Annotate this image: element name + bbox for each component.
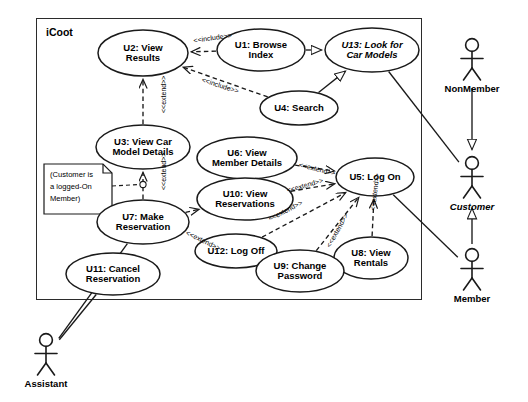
use-case-label-u9: U9: Change Password (256, 250, 344, 292)
actor-figure-customer[interactable] (461, 157, 483, 198)
actor-figure-assistant[interactable] (35, 334, 57, 375)
actor-label-assistant: Assistant (1, 378, 91, 389)
actor-figure-member[interactable] (461, 249, 483, 290)
use-case-label-u3: U3: View Car Model Details (96, 125, 190, 169)
relationship-stereotype-label: <<extend>> (160, 76, 167, 113)
use-case-label-u13: U13: Look for Car Models (325, 28, 419, 72)
use-case-label-u7: U7: Make Reservation (97, 200, 189, 244)
actor-label-member: Member (427, 293, 517, 304)
actor-figure-nonmember[interactable] (461, 39, 483, 80)
use-case-label-u6: U6: View Member Details (197, 137, 297, 179)
actor-label-nonmember: NonMember (427, 83, 517, 94)
use-case-label-u11: U11: Cancel Reservation (66, 253, 160, 295)
use-case-label-u8: U8: View Rentals (334, 237, 408, 279)
use-case-label-u4: U4: Search (260, 91, 338, 125)
relationship-stereotype-label: <<extend>> (160, 153, 167, 190)
use-case-label-u2: U2: View Results (98, 30, 188, 76)
use-case-diagram-canvas: iCoot (Customer is a logged-On Member) U… (0, 0, 528, 402)
actor-label-customer: Customer (427, 201, 517, 212)
